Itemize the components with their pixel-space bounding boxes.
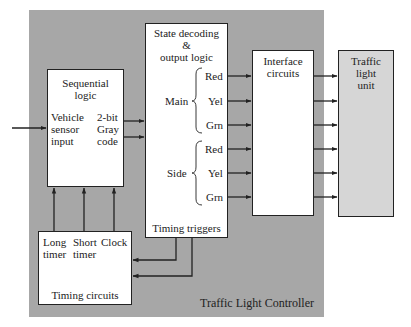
connection-lines [0,0,411,327]
